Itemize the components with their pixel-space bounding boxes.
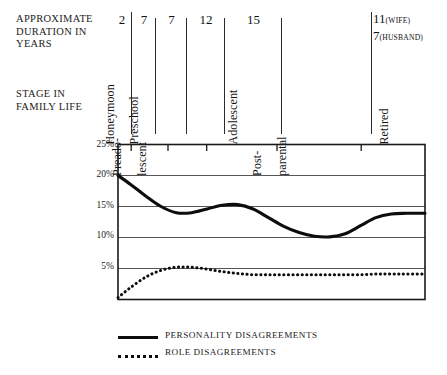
x-axis-ticks — [131, 145, 361, 152]
plot-frame — [118, 145, 425, 300]
legend-label-personality: PERSONALITY DISAGREEMENTS — [165, 330, 318, 340]
legend-swatch-dotted-icon — [118, 355, 158, 358]
legend-swatch-solid-icon — [118, 336, 158, 339]
legend-label-role: ROLE DISAGREEMENTS — [165, 347, 276, 357]
gridlines — [118, 176, 425, 269]
chart-plot-area — [0, 0, 447, 375]
family-life-disagreements-figure: APPROXIMATE DURATION IN YEARS STAGE IN F… — [0, 0, 447, 375]
series-line-role-disagreements — [118, 267, 425, 298]
